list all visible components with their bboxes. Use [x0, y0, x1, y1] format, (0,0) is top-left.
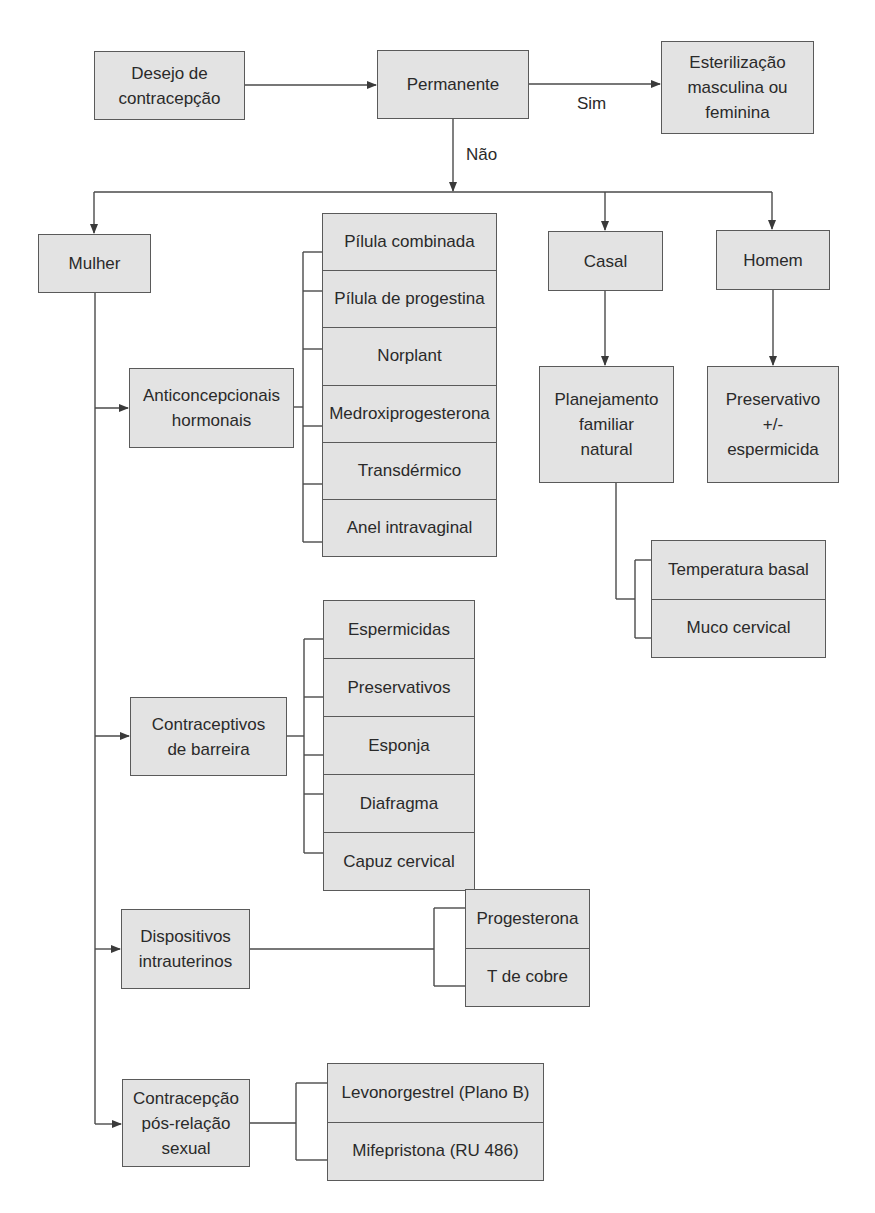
- contraceptivos-de-barreira-node: Contraceptivos de barreira: [130, 697, 287, 776]
- permanente-node: Permanente: [377, 50, 529, 119]
- dispositivos-intrauterinos-node: Dispositivos intrauterinos: [121, 909, 250, 989]
- desejo-de-contracepcao-node: Desejo de contracepção: [94, 51, 245, 120]
- list-item: Transdérmico: [323, 442, 496, 499]
- list-item: Anel intravaginal: [323, 499, 496, 556]
- planejamento-familiar-natural-node: Planejamento familiar natural: [539, 366, 674, 483]
- list-item: Temperatura basal: [652, 541, 825, 599]
- contraception-flowchart: Desejo de contracepção Permanente Esteri…: [0, 0, 875, 1213]
- nao-edge-label: Não: [466, 145, 497, 165]
- sim-edge-label: Sim: [577, 94, 606, 114]
- anticoncepcionais-hormonais-node: Anticoncepcionais hormonais: [129, 368, 294, 448]
- list-item: Espermicidas: [324, 601, 474, 658]
- diu-methods-list: Progesterona T de cobre: [465, 889, 590, 1007]
- mulher-node: Mulher: [38, 234, 151, 293]
- list-item: Preservativos: [324, 658, 474, 716]
- barreira-methods-list: Espermicidas Preservativos Esponja Diafr…: [323, 600, 475, 891]
- esterilizacao-node: Esterilização masculina ou feminina: [661, 41, 814, 134]
- list-item: Pílula de progestina: [323, 270, 496, 327]
- homem-node: Homem: [716, 230, 830, 290]
- list-item: Esponja: [324, 716, 474, 774]
- list-item: Diafragma: [324, 774, 474, 832]
- planejamento-methods-list: Temperatura basal Muco cervical: [651, 540, 826, 658]
- contracepcao-pos-relacao-node: Contracepção pós-relação sexual: [122, 1079, 250, 1167]
- list-item: Levonorgestrel (Plano B): [328, 1064, 543, 1122]
- list-item: Muco cervical: [652, 599, 825, 658]
- preservativo-espermicida-node: Preservativo +/- espermicida: [707, 366, 839, 483]
- hormonais-methods-list: Pílula combinada Pílula de progestina No…: [322, 213, 497, 557]
- casal-node: Casal: [548, 231, 663, 291]
- list-item: T de cobre: [466, 948, 589, 1007]
- list-item: Mifepristona (RU 486): [328, 1122, 543, 1181]
- list-item: Medroxiprogesterona: [323, 385, 496, 442]
- list-item: Norplant: [323, 327, 496, 384]
- list-item: Pílula combinada: [323, 214, 496, 270]
- list-item: Capuz cervical: [324, 832, 474, 890]
- pos-relacao-methods-list: Levonorgestrel (Plano B) Mifepristona (R…: [327, 1063, 544, 1181]
- list-item: Progesterona: [466, 890, 589, 948]
